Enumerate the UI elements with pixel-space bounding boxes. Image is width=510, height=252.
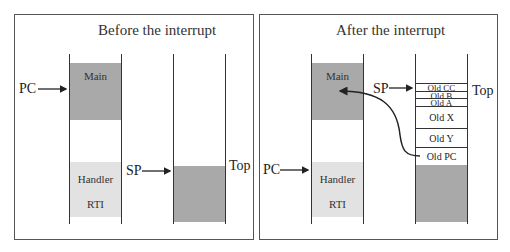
return-address-curve-arrow-icon: [340, 91, 420, 156]
arrows-layer: [0, 0, 510, 252]
